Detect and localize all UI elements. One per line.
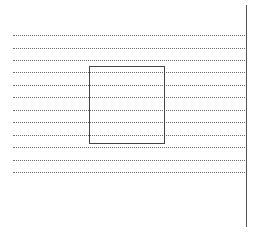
lined-paper <box>0 0 262 236</box>
ruled-line <box>13 147 247 148</box>
ruled-line <box>13 160 247 161</box>
ruled-line <box>13 48 247 49</box>
rectangle-box <box>89 66 165 144</box>
ruled-line <box>13 35 247 36</box>
margin-line <box>246 5 247 227</box>
ruled-line <box>13 172 247 173</box>
ruled-line <box>13 60 247 61</box>
